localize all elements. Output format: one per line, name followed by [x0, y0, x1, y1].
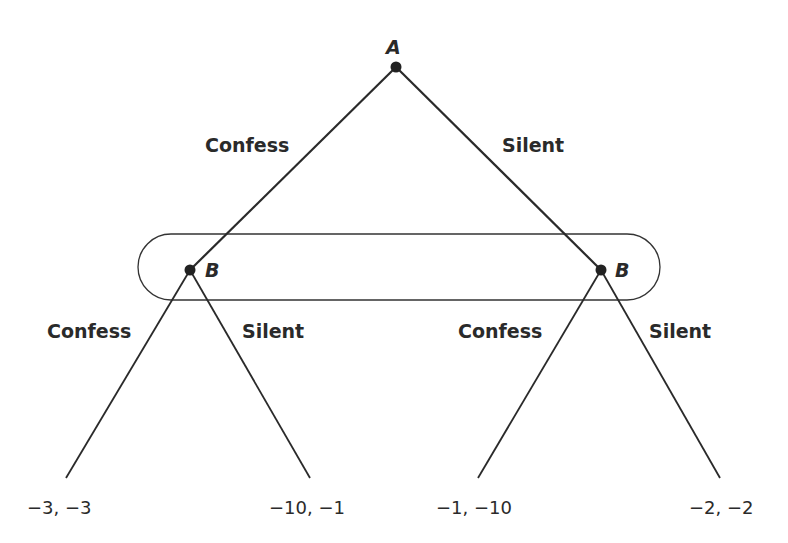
node-label-b-left: B	[205, 259, 219, 281]
edge-b2-silent	[601, 270, 720, 478]
edge-label-a-confess: Confess	[205, 134, 289, 156]
edge-label-b1-confess: Confess	[47, 320, 131, 342]
node-label-b-right: B	[615, 259, 629, 281]
payoff-2: −10, −1	[269, 497, 345, 518]
edge-b1-confess	[66, 270, 190, 478]
payoff-3: −1, −10	[436, 497, 512, 518]
game-tree	[0, 0, 788, 543]
edge-a-silent	[396, 67, 601, 270]
payoff-4: −2, −2	[689, 497, 754, 518]
edge-b2-confess	[478, 270, 601, 478]
node-label-a: A	[386, 36, 401, 58]
node-a	[391, 62, 402, 73]
edge-label-b1-silent: Silent	[242, 320, 304, 342]
edge-b1-silent	[190, 270, 310, 478]
node-b-right	[596, 265, 607, 276]
payoff-1: −3, −3	[27, 497, 92, 518]
edge-label-a-silent: Silent	[502, 134, 564, 156]
edge-a-confess	[190, 67, 396, 270]
node-b-left	[185, 265, 196, 276]
edge-label-b2-confess: Confess	[458, 320, 542, 342]
edge-label-b2-silent: Silent	[649, 320, 711, 342]
